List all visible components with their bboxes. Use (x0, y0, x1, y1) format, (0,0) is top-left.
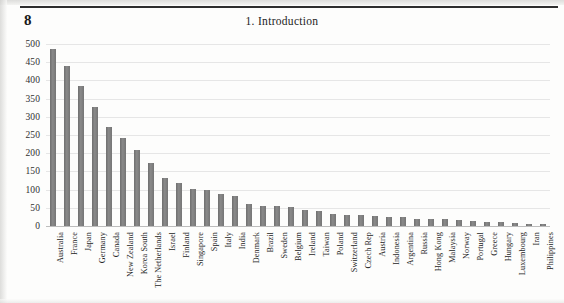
x-axis-slot: Malaysia (438, 230, 452, 300)
bar-series (46, 44, 550, 226)
bar-slot (270, 44, 284, 226)
bar (358, 215, 364, 226)
x-axis-slot: Hungary (494, 230, 508, 300)
x-axis-slot: Luxembourg (508, 230, 522, 300)
bar (400, 217, 406, 226)
y-axis-tick-label: 250 (25, 130, 40, 140)
bar-slot (438, 44, 452, 226)
x-axis-slot: Russia (410, 230, 424, 300)
bar-slot (494, 44, 508, 226)
bar (120, 138, 126, 226)
x-axis-slot: India (228, 230, 242, 300)
x-axis-slot: Canada (102, 230, 116, 300)
bar (372, 216, 378, 226)
bar (442, 219, 448, 226)
x-axis-slot: Ireland (298, 230, 312, 300)
bar-slot (130, 44, 144, 226)
x-axis-slot: New Zealand (116, 230, 130, 300)
bar-slot (410, 44, 424, 226)
bar-slot (536, 44, 550, 226)
x-axis-slot: Taiwan (312, 230, 326, 300)
bar-slot (60, 44, 74, 226)
y-axis-tick-label: 100 (25, 185, 40, 195)
running-head: 1. Introduction (0, 15, 564, 27)
bar (106, 127, 112, 226)
bar (148, 163, 154, 226)
y-axis-tick-label: 350 (25, 94, 40, 104)
x-axis-slot: Indonesia (382, 230, 396, 300)
bar (78, 86, 84, 226)
bar-slot (340, 44, 354, 226)
y-axis-tick-label: 200 (25, 148, 40, 158)
x-axis-slot: Finland (172, 230, 186, 300)
bar-slot (46, 44, 60, 226)
bar-slot (480, 44, 494, 226)
y-axis-tick-label: 150 (25, 166, 40, 176)
x-axis-slot: Hong Kong (424, 230, 438, 300)
bar (316, 211, 322, 226)
bar-slot (74, 44, 88, 226)
y-axis-tick-label: 50 (30, 203, 40, 213)
bar-slot (116, 44, 130, 226)
bar-chart: 500450400350300250200150100500 Australia… (0, 40, 564, 303)
bar-slot (228, 44, 242, 226)
bar (302, 210, 308, 226)
bar-slot (466, 44, 480, 226)
bar-slot (214, 44, 228, 226)
y-axis-tick-label: 500 (25, 39, 40, 49)
bar (428, 219, 434, 226)
bar-slot (522, 44, 536, 226)
bar (330, 214, 336, 226)
bar (498, 222, 504, 226)
bar-slot (284, 44, 298, 226)
plot-area (46, 44, 550, 226)
bar (218, 194, 224, 226)
gridline (46, 226, 550, 227)
bar-slot (200, 44, 214, 226)
bar (344, 215, 350, 226)
bar (288, 207, 294, 226)
x-axis-slot: Argentina (396, 230, 410, 300)
bar-slot (424, 44, 438, 226)
bar-slot (102, 44, 116, 226)
x-axis-slot: Australia (46, 230, 60, 300)
y-axis-tick-label: 450 (25, 57, 40, 67)
bar (470, 221, 476, 226)
x-axis-slot: Korea South (130, 230, 144, 300)
bar (456, 220, 462, 226)
x-axis-slot: Austria (368, 230, 382, 300)
x-axis-slot: Singapore (186, 230, 200, 300)
x-axis-slot: Poland (326, 230, 340, 300)
x-axis-slot: Norway (452, 230, 466, 300)
bar (134, 150, 140, 226)
x-axis-slot: Iran (522, 230, 536, 300)
x-axis-slot: France (60, 230, 74, 300)
bar (50, 49, 56, 226)
header-rule (20, 6, 558, 8)
bar-slot (256, 44, 270, 226)
bar-slot (298, 44, 312, 226)
bar (162, 178, 168, 226)
bar-slot (382, 44, 396, 226)
bar-slot (88, 44, 102, 226)
bar (176, 183, 182, 226)
x-axis-slot: Israel (158, 230, 172, 300)
x-axis-slot: Japan (74, 230, 88, 300)
bar-slot (368, 44, 382, 226)
x-axis-slot: Sweden (270, 230, 284, 300)
x-axis: AustraliaFranceJapanGermanyCanadaNew Zea… (46, 230, 550, 300)
x-axis-slot: Philippines (536, 230, 550, 300)
bar-slot (508, 44, 522, 226)
x-axis-slot: Belgium (284, 230, 298, 300)
bar (92, 107, 98, 226)
x-axis-tick-label: Philippines (546, 232, 555, 270)
bar-slot (172, 44, 186, 226)
x-axis-slot: Denmark (242, 230, 256, 300)
y-axis-tick-label: 400 (25, 75, 40, 85)
bar (64, 66, 70, 226)
y-axis: 500450400350300250200150100500 (0, 44, 44, 226)
bar-slot (396, 44, 410, 226)
bar (484, 222, 490, 226)
bar-slot (144, 44, 158, 226)
bar (526, 224, 532, 226)
